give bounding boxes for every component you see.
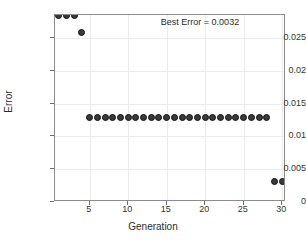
data-point xyxy=(225,114,232,121)
y-axis-tick xyxy=(50,201,54,202)
data-point xyxy=(94,114,101,121)
data-point xyxy=(71,14,78,19)
y-axis-tick-label: 0.015 xyxy=(260,99,306,108)
data-point xyxy=(86,114,93,121)
data-point xyxy=(232,114,239,121)
data-point xyxy=(271,178,278,185)
y-axis-tick xyxy=(50,70,54,71)
data-point xyxy=(256,114,263,121)
y-axis-tick-label: 0.005 xyxy=(260,164,306,173)
data-point xyxy=(179,114,186,121)
data-point xyxy=(132,114,139,121)
data-point xyxy=(217,114,224,121)
data-point xyxy=(117,114,124,121)
data-point xyxy=(240,114,247,121)
y-axis-tick xyxy=(50,168,54,169)
y-axis-tick-label: 0.01 xyxy=(260,131,306,140)
y-axis-tick-label: 0.025 xyxy=(260,33,306,42)
x-axis-tick-label: 20 xyxy=(184,205,224,214)
data-point xyxy=(279,178,285,185)
data-point xyxy=(186,114,193,121)
x-axis-tick-label: 25 xyxy=(223,205,263,214)
x-axis-tick-label: 15 xyxy=(146,205,186,214)
data-point xyxy=(248,114,255,121)
data-point xyxy=(163,114,170,121)
data-point xyxy=(78,29,85,36)
y-axis-tick-label: 0.02 xyxy=(260,66,306,75)
data-point xyxy=(194,114,201,121)
grid-line-vertical xyxy=(167,15,168,200)
data-point xyxy=(263,114,270,121)
data-point xyxy=(55,14,62,19)
grid-line-vertical xyxy=(205,15,206,200)
data-point xyxy=(171,114,178,121)
data-point xyxy=(102,114,109,121)
y-axis-tick xyxy=(50,135,54,136)
grid-line-vertical xyxy=(128,15,129,200)
y-axis-title: Error xyxy=(3,72,14,132)
x-axis-tick-label: 10 xyxy=(107,205,147,214)
chart-figure: Error Generation Best Error = 0.0032 00.… xyxy=(0,0,306,240)
data-point xyxy=(109,114,116,121)
data-point xyxy=(155,114,162,121)
grid-line-vertical xyxy=(90,15,91,200)
x-axis-tick-label: 5 xyxy=(69,205,109,214)
y-axis-tick xyxy=(50,103,54,104)
data-point xyxy=(209,114,216,121)
data-point xyxy=(125,114,132,121)
data-point xyxy=(140,114,147,121)
y-axis-tick xyxy=(50,37,54,38)
plot-area xyxy=(54,14,285,201)
best-error-annotation: Best Error = 0.0032 xyxy=(125,17,275,27)
x-axis-title: Generation xyxy=(0,221,306,232)
data-point xyxy=(63,14,70,19)
x-axis-tick-label: 30 xyxy=(261,205,301,214)
data-point xyxy=(148,114,155,121)
grid-line-vertical xyxy=(244,15,245,200)
data-point xyxy=(202,114,209,121)
